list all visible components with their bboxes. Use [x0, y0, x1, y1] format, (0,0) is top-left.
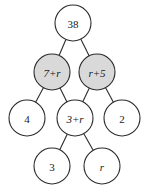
number-pyramid-diagram: 387+rr+543+r23r — [0, 0, 146, 186]
node-label-l1: 7+r — [43, 67, 61, 79]
edge-b2-b3 — [84, 134, 93, 151]
edge-top-r1 — [81, 39, 89, 56]
edge-l1-b2 — [60, 88, 67, 102]
edge-l1-a2 — [36, 88, 44, 102]
pyramid-node-top: 38 — [55, 5, 91, 41]
pyramid-node-r1: r+5 — [79, 54, 115, 90]
pyramid-node-b2: 3+r — [57, 100, 93, 136]
node-label-b3: r — [100, 161, 105, 173]
pyramid-node-b3: r — [84, 148, 120, 184]
edge-top-l1 — [59, 40, 66, 56]
edge-r1-b2 — [83, 88, 89, 102]
node-label-r1: r+5 — [88, 67, 106, 79]
edge-b2-a3 — [60, 134, 67, 150]
pyramid-node-a3: 3 — [34, 148, 70, 184]
pyramid-node-c2: 2 — [104, 100, 140, 136]
node-label-b2: 3+r — [65, 113, 84, 125]
pyramid-canvas: 387+rr+543+r23r — [0, 0, 146, 186]
pyramid-node-a2: 4 — [9, 100, 45, 136]
node-label-top: 38 — [68, 18, 80, 30]
node-label-c2: 2 — [119, 113, 125, 125]
pyramid-node-l1: 7+r — [34, 54, 70, 90]
nodes-group: 387+rr+543+r23r — [9, 5, 140, 184]
edge-r1-c2 — [106, 88, 114, 102]
node-label-a2: 4 — [24, 113, 30, 125]
node-label-a3: 3 — [49, 161, 55, 173]
